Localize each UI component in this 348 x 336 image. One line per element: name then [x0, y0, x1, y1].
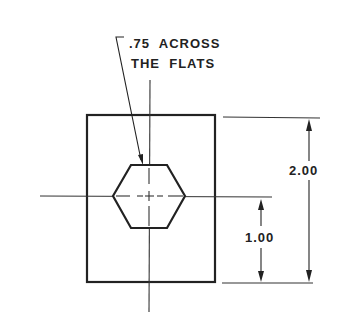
callout-line-1: .75 ACROSS	[129, 36, 220, 51]
dimension-label-2-00: 2.00	[289, 163, 318, 178]
extension-line-top	[223, 117, 320, 118]
leader-arrowhead	[138, 154, 143, 165]
dimension-label-1-00: 1.00	[245, 230, 274, 245]
technical-drawing: .75 ACROSS THE FLATS 2.00 1.00	[0, 0, 348, 336]
callout-line-2: THE FLATS	[131, 56, 215, 71]
dimension-overall-height	[306, 119, 312, 282]
